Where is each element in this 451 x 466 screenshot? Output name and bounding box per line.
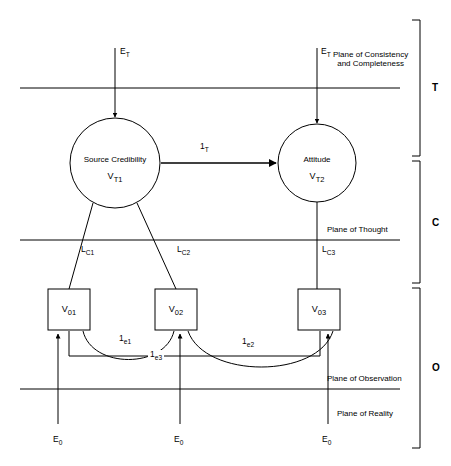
label-path-structural-T: 1T <box>200 142 209 152</box>
node-variable-observed-2-sub: 02 <box>175 308 183 317</box>
label-et-left-sub: T <box>126 51 130 58</box>
label-et-right-sub: T <box>327 51 331 58</box>
label-e0-left: E0 <box>53 435 62 445</box>
diagram-canvas: ET ET Plane of Consistency and Completen… <box>0 0 451 466</box>
label-plane-consistency-line1: Plane of Consistency <box>333 50 408 59</box>
node-variable-source-credibility-sub: T1 <box>114 175 123 184</box>
label-et-right: ET <box>321 47 331 57</box>
node-variable-source-credibility: VT1 <box>65 171 165 184</box>
label-e0-right-sub: 0 <box>328 439 332 446</box>
node-variable-observed-3: V03 <box>298 304 340 317</box>
label-error-e2-sub: e2 <box>247 341 254 348</box>
label-plane-consistency-line2: and Completeness <box>333 59 408 68</box>
node-variable-observed-2: V02 <box>155 304 197 317</box>
label-path-lc3: LC3 <box>322 245 335 255</box>
path-line-lc2 <box>137 203 176 289</box>
label-region-theory: T <box>432 82 438 94</box>
label-path-lc1: LC1 <box>81 245 94 255</box>
label-error-e3: 1e3 <box>148 350 164 360</box>
path-curve-e3 <box>69 331 320 356</box>
label-e0-middle: E0 <box>174 435 183 445</box>
label-plane-thought: Plane of Thought <box>327 225 388 234</box>
path-curve-e2 <box>188 331 333 367</box>
label-plane-consistency: Plane of Consistency and Completeness <box>333 50 408 68</box>
label-path-lc1-sub: C1 <box>86 249 94 256</box>
node-variable-observed-3-sub: 03 <box>318 308 326 317</box>
label-path-structural-T-sub: T <box>205 146 209 153</box>
node-variable-observed-1-sub: 01 <box>68 308 76 317</box>
label-error-e3-sub: e3 <box>155 354 162 361</box>
label-e0-left-sub: 0 <box>59 439 63 446</box>
bracket-region-concept <box>412 161 420 283</box>
label-region-concept: C <box>432 217 439 229</box>
label-region-observation: O <box>432 362 440 374</box>
label-plane-observation: Plane of Observation <box>327 374 402 383</box>
label-et-left: ET <box>120 47 130 57</box>
label-e0-middle-sub: 0 <box>180 439 184 446</box>
label-path-lc2-sub: C2 <box>182 249 190 256</box>
node-variable-attitude-sub: T2 <box>316 175 325 184</box>
bracket-region-observation <box>412 288 420 448</box>
label-e0-right: E0 <box>322 435 331 445</box>
label-path-lc2: LC2 <box>177 245 190 255</box>
label-error-e2: 1e2 <box>242 337 254 347</box>
label-path-lc3-sub: C3 <box>327 249 335 256</box>
node-variable-observed-1: V01 <box>48 304 90 317</box>
label-error-e1: 1e1 <box>119 334 131 344</box>
label-error-e1-sub: e1 <box>124 338 131 345</box>
label-plane-reality: Plane of Reality <box>337 409 393 418</box>
node-variable-attitude: VT2 <box>277 171 357 184</box>
bracket-region-theory <box>412 20 420 156</box>
node-label-attitude: Attitude <box>277 155 357 164</box>
node-label-source-credibility: Source Credibility <box>65 155 165 164</box>
